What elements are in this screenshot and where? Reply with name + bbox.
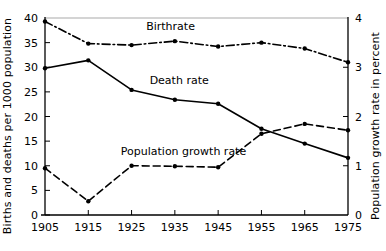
series-label-death-rate: Death rate <box>150 74 209 87</box>
x-axis-tick-label: 1905 <box>31 221 59 234</box>
data-point <box>86 41 90 45</box>
series-line-birthrate <box>45 21 348 62</box>
y-axis-left-tick-label: 30 <box>24 61 38 74</box>
x-axis-tick-label: 1915 <box>74 221 102 234</box>
x-axis-tick-label: 1965 <box>291 221 319 234</box>
y-axis-left-tick-label: 15 <box>24 135 38 148</box>
y-axis-left-tick-label: 20 <box>24 111 38 124</box>
data-point <box>43 19 47 23</box>
data-point <box>216 44 220 48</box>
data-point <box>86 199 90 203</box>
data-point <box>43 66 47 70</box>
y-axis-right-tick-label: 3 <box>355 61 362 74</box>
x-axis-tick-label: 1955 <box>247 221 275 234</box>
x-axis-tick-label: 1975 <box>334 221 362 234</box>
data-point <box>303 46 307 50</box>
data-point <box>216 165 220 169</box>
series-line-population-growth-rate <box>45 124 348 201</box>
x-axis-tick-label: 1935 <box>161 221 189 234</box>
series-labels-group: BirthrateDeath ratePopulation growth rat… <box>121 20 247 158</box>
y-axis-right-tick-label: 4 <box>355 12 362 25</box>
data-point <box>43 166 47 170</box>
data-point <box>129 43 133 47</box>
series-label-population-growth-rate: Population growth rate <box>121 145 247 158</box>
data-point <box>259 127 263 131</box>
data-point <box>129 88 133 92</box>
x-axis-tick-label: 1945 <box>204 221 232 234</box>
y-axis-right-tick-label: 1 <box>355 160 362 173</box>
data-point <box>173 39 177 43</box>
chart-plot-area: 0510152025303540 01234 19051915192519351… <box>0 0 386 251</box>
x-axis-tick-label: 1925 <box>118 221 146 234</box>
data-point <box>86 58 90 62</box>
y-axis-left-ticks: 0510152025303540 <box>24 12 50 222</box>
y-axis-left-tick-label: 25 <box>24 86 38 99</box>
chart-figure: Births and deaths per 1000 population Po… <box>0 0 386 251</box>
y-axis-left-tick-label: 10 <box>24 160 38 173</box>
data-point <box>346 60 350 64</box>
data-point <box>129 164 133 168</box>
data-point <box>259 132 263 136</box>
data-point <box>346 128 350 132</box>
x-axis-ticks: 19051915192519351945195519651975 <box>31 210 362 234</box>
data-point <box>173 164 177 168</box>
data-point <box>259 40 263 44</box>
data-series-group <box>43 19 350 203</box>
y-axis-left-tick-label: 35 <box>24 37 38 50</box>
axes-group <box>41 17 348 215</box>
data-point <box>173 98 177 102</box>
data-point <box>346 156 350 160</box>
series-label-birthrate: Birthrate <box>146 20 195 33</box>
y-axis-left-tick-label: 5 <box>31 184 38 197</box>
data-point <box>303 141 307 145</box>
y-axis-left-tick-label: 40 <box>24 12 38 25</box>
data-point <box>216 101 220 105</box>
y-axis-right-ticks: 01234 <box>343 12 362 222</box>
y-axis-right-tick-label: 2 <box>355 111 362 124</box>
data-point <box>303 122 307 126</box>
